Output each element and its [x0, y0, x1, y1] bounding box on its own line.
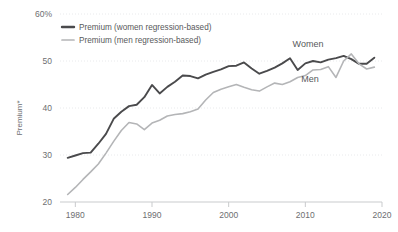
y-axis-tick-label: 30	[43, 150, 53, 160]
x-axis-tick-label: 1980	[66, 210, 85, 220]
premium-line-chart: 60%50403020 19801990200020102020 Premium…	[0, 0, 398, 232]
svg-text:Premium*: Premium*	[15, 100, 24, 135]
inline-label-men: Men	[301, 74, 319, 84]
y-axis-title: Premium*	[15, 100, 24, 135]
x-axis-tick-label: 2010	[296, 210, 315, 220]
legend-label-women: Premium (women regression-based)	[79, 23, 212, 32]
y-axis-tick-label: 60%	[35, 9, 52, 19]
x-axis-tick-label: 1990	[143, 210, 162, 220]
inline-label-women: Women	[293, 39, 324, 49]
x-axis-tick-labels: 19801990200020102020	[66, 210, 392, 220]
x-axis	[60, 202, 382, 207]
series-line-men	[68, 54, 375, 195]
chart-canvas: 60%50403020 19801990200020102020 Premium…	[0, 0, 398, 232]
y-axis-tick-label: 20	[43, 197, 53, 207]
legend: Premium (women regression-based)Premium …	[62, 23, 212, 45]
y-axis-tick-label: 40	[43, 103, 53, 113]
x-axis-tick-label: 2020	[373, 210, 392, 220]
legend-label-men: Premium (men regression-based)	[79, 36, 201, 45]
y-axis-tick-label: 50	[43, 56, 53, 66]
data-series	[68, 54, 375, 195]
y-axis-tick-labels: 60%50403020	[35, 9, 52, 207]
gridlines	[60, 14, 382, 155]
x-axis-tick-label: 2000	[219, 210, 238, 220]
